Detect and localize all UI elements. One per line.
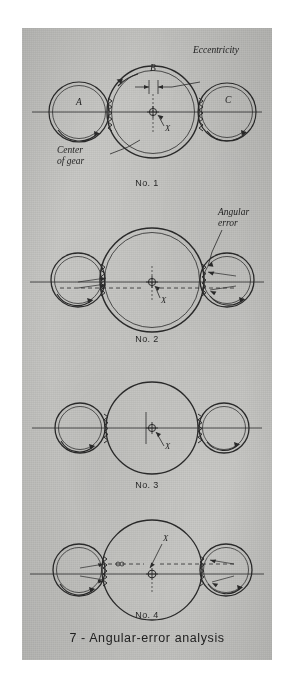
angular-error-leader xyxy=(208,230,222,266)
x-axis-label-2: X xyxy=(161,296,166,305)
diagram-no-4-label: No. 4 xyxy=(22,610,272,620)
diagram-no-3-drawing xyxy=(22,358,272,492)
gear-a-rotation-arc xyxy=(60,584,94,595)
diagram-no-2-label: No. 2 xyxy=(22,334,272,344)
gear-a-outer xyxy=(51,253,105,307)
eccentricity-arrow-left xyxy=(144,85,149,89)
gear-a-inner xyxy=(57,548,102,593)
x-label-arrowhead xyxy=(156,432,161,437)
x-axis-label-4: X xyxy=(163,534,168,543)
gear-c-inner xyxy=(204,548,249,593)
gear-a-rotation-arc xyxy=(61,441,94,452)
angular-error-arrow-right-a xyxy=(208,272,214,276)
figure-panel: Eccentricity Center of gear A B C X No. … xyxy=(22,28,272,660)
center-of-gear-label-line1: Center xyxy=(57,146,83,156)
center-of-gear-label-line2: of gear xyxy=(57,157,84,167)
mesh-arrowhead-right-b xyxy=(212,583,218,587)
angular-error-label-line2: error xyxy=(218,219,238,229)
angular-error-arrow-right-b xyxy=(210,291,216,295)
diagram-no-3: X xyxy=(22,358,272,492)
diagram-no-1: Eccentricity Center of gear A B C X xyxy=(22,34,272,180)
x-label-arrowhead xyxy=(158,115,163,120)
angular-error-label-line1: Angular xyxy=(218,208,249,218)
gear-c-outer xyxy=(200,544,252,596)
diagram-no-1-label: No. 1 xyxy=(22,178,272,188)
gear-c-label: C xyxy=(225,96,231,106)
gear-a-label: A xyxy=(76,98,82,108)
mesh-arrowhead-right-a xyxy=(210,559,216,563)
gear-c-outer xyxy=(200,253,254,307)
diagram-no-3-label: No. 3 xyxy=(22,480,272,490)
gear-a-outer xyxy=(53,544,105,596)
diagram-no-2: Angular error X xyxy=(22,200,272,346)
figure-caption: 7 - Angular-error analysis xyxy=(22,631,272,645)
x-axis-label-1: X xyxy=(165,124,170,133)
x-label-arrowhead xyxy=(150,562,155,568)
x-axis-label-3: X xyxy=(165,442,170,451)
gear-a-rotation-arc xyxy=(57,294,92,306)
eccentricity-arrow-right xyxy=(158,85,163,89)
gear-c-rotation-arc xyxy=(207,131,246,141)
gear-b-label: B xyxy=(150,64,156,74)
eccentricity-label: Eccentricity xyxy=(193,46,239,56)
mesh-arrow-right-b xyxy=(212,576,234,582)
